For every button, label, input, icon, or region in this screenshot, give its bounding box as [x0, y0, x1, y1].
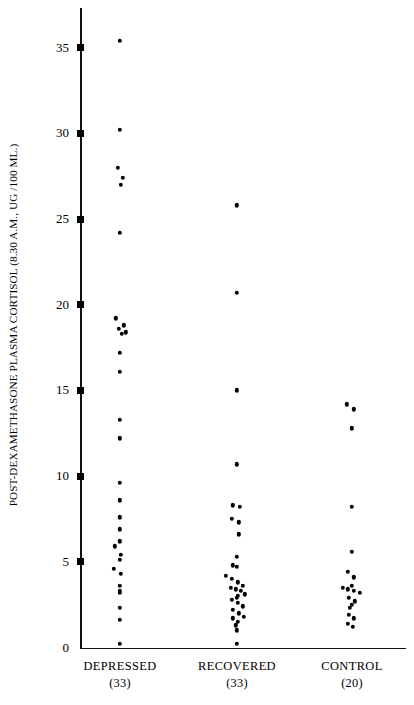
y-tick-mark [77, 130, 84, 137]
data-point [242, 614, 246, 618]
data-point [118, 527, 122, 531]
group-label-control: CONTROL(20) [321, 658, 382, 691]
data-point [118, 539, 122, 543]
y-tick-label: 10 [56, 468, 69, 484]
data-point [113, 544, 117, 548]
data-point [118, 39, 122, 43]
y-tick-label: 30 [56, 125, 69, 141]
data-point [350, 426, 354, 430]
data-point [352, 575, 356, 579]
y-tick-label: 25 [56, 211, 69, 227]
data-point [119, 183, 123, 187]
data-point [118, 642, 122, 646]
data-point [118, 498, 122, 502]
data-point [121, 176, 125, 180]
y-tick-mark [77, 558, 84, 565]
data-point [118, 590, 122, 594]
data-point [118, 481, 122, 485]
y-tick-label: 15 [56, 382, 69, 398]
data-point [346, 570, 350, 574]
plot-area: 05101520253035 [80, 8, 406, 652]
y-tick-label: 5 [63, 554, 70, 570]
data-point [118, 128, 122, 132]
data-point [350, 584, 354, 588]
group-name: RECOVERED [198, 659, 276, 673]
data-point [124, 330, 128, 334]
data-point [234, 623, 238, 627]
y-axis-title: POST-DEXAMETHASONE PLASMA CORTISOL (8.30… [2, 0, 24, 650]
y-tick-mark [77, 44, 84, 51]
data-point [352, 616, 356, 620]
data-point [119, 572, 123, 576]
data-point [235, 388, 239, 392]
data-point [341, 585, 345, 589]
y-axis-line [80, 8, 82, 649]
y-tick-label: 35 [56, 40, 69, 56]
group-name: CONTROL [321, 659, 382, 673]
data-point [118, 584, 122, 588]
data-point [231, 503, 235, 507]
group-name: DEPRESSED [83, 659, 156, 673]
data-point [230, 597, 234, 601]
data-point [118, 606, 122, 610]
group-count: (33) [83, 675, 156, 692]
data-point [235, 203, 239, 207]
data-point [235, 565, 239, 569]
data-point [348, 606, 352, 610]
data-point [243, 592, 247, 596]
data-point [352, 589, 356, 593]
y-tick-label: 0 [63, 640, 70, 656]
y-tick-mark [77, 216, 84, 223]
data-point [118, 231, 122, 235]
data-point [238, 505, 242, 509]
data-point [235, 462, 239, 466]
data-point [350, 549, 354, 553]
data-point [235, 554, 239, 558]
data-point [235, 291, 239, 295]
data-point [114, 316, 118, 320]
data-point [118, 515, 122, 519]
data-point [235, 628, 239, 632]
data-point [235, 642, 239, 646]
data-point [347, 596, 351, 600]
y-tick-mark [77, 387, 84, 394]
data-point [346, 621, 350, 625]
data-point [230, 517, 234, 521]
data-point [122, 323, 126, 327]
data-point [231, 616, 235, 620]
data-point [237, 532, 241, 536]
data-point [346, 587, 350, 591]
data-point [119, 553, 123, 557]
data-point [236, 601, 240, 605]
data-point [118, 436, 122, 440]
group-count: (20) [321, 675, 382, 692]
group-label-depressed: DEPRESSED(33) [83, 658, 156, 691]
data-point [352, 407, 356, 411]
data-point [347, 613, 351, 617]
data-point [351, 625, 355, 629]
data-point [230, 577, 234, 581]
data-point [235, 596, 239, 600]
data-point [117, 327, 121, 331]
data-point [120, 332, 124, 336]
data-point [241, 604, 245, 608]
y-tick-mark [77, 473, 84, 480]
data-point [241, 584, 245, 588]
y-tick-mark [77, 301, 84, 308]
data-point [224, 573, 228, 577]
data-point [118, 417, 122, 421]
x-axis-line [80, 648, 406, 650]
data-point [237, 520, 241, 524]
data-point [237, 611, 241, 615]
data-point [118, 369, 122, 373]
group-label-recovered: RECOVERED(33) [198, 658, 276, 691]
scatter-plot-figure: POST-DEXAMETHASONE PLASMA CORTISOL (8.30… [0, 0, 414, 705]
data-point [350, 505, 354, 509]
data-point [118, 558, 122, 562]
data-point [116, 165, 120, 169]
group-count: (33) [198, 675, 276, 692]
data-point [118, 618, 122, 622]
data-point [236, 580, 240, 584]
data-point [118, 351, 122, 355]
data-point [112, 566, 116, 570]
